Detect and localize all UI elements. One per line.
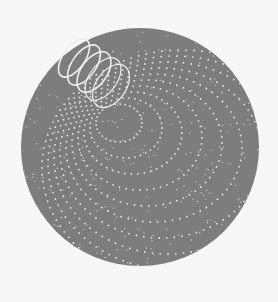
illustration — [0, 0, 278, 302]
coil-disc-illustration — [0, 0, 278, 302]
